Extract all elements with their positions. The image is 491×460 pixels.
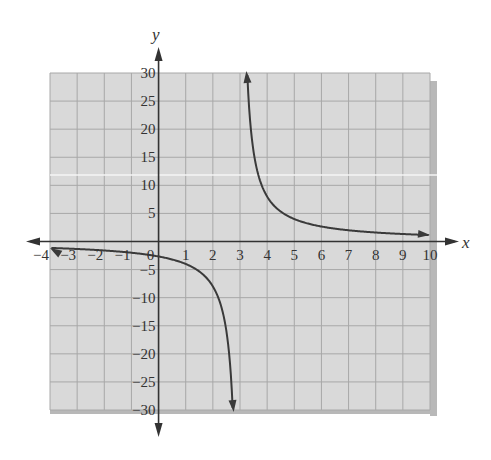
x-tick-label: 3 bbox=[236, 247, 244, 263]
y-axis-label: y bbox=[150, 25, 160, 44]
x-tick-label: 2 bbox=[209, 247, 217, 263]
y-tick-label: −5 bbox=[140, 262, 156, 278]
hyperbola-chart: −4−3−2−1012345678910 30252015105−5−10−15… bbox=[0, 0, 491, 460]
y-tick-label: −15 bbox=[132, 318, 155, 334]
x-axis-label: x bbox=[461, 233, 470, 252]
x-tick-label: 7 bbox=[345, 247, 353, 263]
x-tick-label: 8 bbox=[372, 247, 380, 263]
x-tick-label: 10 bbox=[423, 247, 438, 263]
x-axis-left-arrow-icon bbox=[26, 238, 40, 246]
y-tick-label: −20 bbox=[132, 346, 155, 362]
x-tick-label: −2 bbox=[87, 247, 103, 263]
y-tick-label: 25 bbox=[141, 93, 156, 109]
x-tick-label: 9 bbox=[399, 247, 407, 263]
x-tick-label: −3 bbox=[60, 247, 76, 263]
y-axis-down-arrow-icon bbox=[155, 423, 163, 437]
y-axis-up-arrow-icon bbox=[155, 47, 163, 61]
x-axis-right-arrow-icon bbox=[445, 238, 459, 246]
y-tick-label: 20 bbox=[141, 121, 156, 137]
x-tick-label: 5 bbox=[291, 247, 299, 263]
y-tick-label: 30 bbox=[141, 65, 156, 81]
x-tick-label: 4 bbox=[263, 247, 271, 263]
y-tick-label: 10 bbox=[141, 177, 156, 193]
x-tick-label: 0 bbox=[147, 247, 155, 263]
y-tick-label: 15 bbox=[141, 149, 156, 165]
x-tick-label: −4 bbox=[33, 247, 49, 263]
y-tick-label: −10 bbox=[132, 290, 155, 306]
y-tick-label: −30 bbox=[132, 402, 155, 418]
x-tick-label: 6 bbox=[318, 247, 326, 263]
x-tick-label: 1 bbox=[182, 247, 190, 263]
y-tick-label: 5 bbox=[148, 205, 156, 221]
y-tick-label: −25 bbox=[132, 374, 155, 390]
x-tick-label: −1 bbox=[114, 247, 130, 263]
